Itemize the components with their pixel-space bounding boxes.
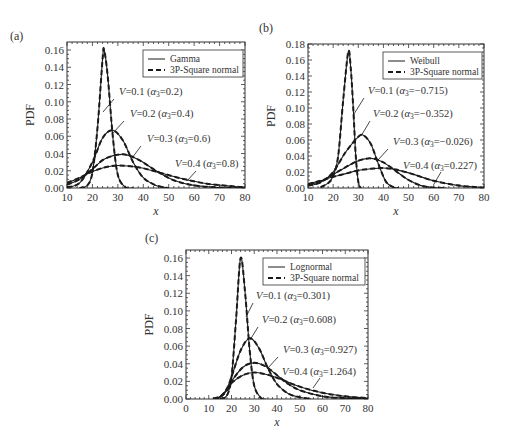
y-tick-label: 0.06 (286, 134, 306, 146)
panel-b: (b)10203040506070800.000.020.040.060.080… (259, 21, 490, 218)
y-tick-label: 0.14 (164, 270, 184, 282)
y-axis-title: PDF (23, 104, 37, 126)
x-tick-label: 40 (138, 191, 150, 203)
y-tick-label: 0.12 (286, 86, 305, 98)
legend: Lognormal3P-Square normal (263, 258, 365, 285)
curve-3p-square-normal-dashed (321, 51, 361, 188)
x-tick-label: 40 (378, 191, 390, 203)
y-axis-title: PDF (142, 313, 156, 335)
y-tick-label: 0.12 (164, 287, 183, 299)
y-tick-label: 0.08 (286, 118, 306, 130)
x-tick-label: 30 (249, 402, 261, 414)
legend-label-solid: Gamma (170, 54, 201, 64)
legend-label-dashed: 3P-Square normal (290, 273, 359, 283)
y-tick-label: 0.02 (45, 165, 64, 177)
y-tick-label: 0.08 (45, 113, 65, 125)
figure-canvas: (a)10203040506070800.000.020.040.060.080… (0, 0, 513, 438)
y-tick-label: 0.04 (286, 150, 306, 162)
x-axis-title: x (392, 204, 399, 218)
x-tick-label: 20 (226, 402, 238, 414)
legend-label-dashed: 3P-Square normal (410, 67, 479, 77)
curve-annotation: V=0.3 (α3=0.927) (283, 344, 357, 357)
curve-annotation: V=0.3 (α3=−0.026) (393, 136, 473, 149)
x-tick-label: 30 (353, 191, 365, 203)
x-tick-label: 70 (340, 402, 352, 414)
panel-label: (c) (145, 231, 158, 245)
annotation-leader-line (313, 378, 320, 388)
y-tick-label: 0.14 (286, 70, 306, 82)
curve-annotation: V=0.2 (α3=0.4) (130, 108, 194, 121)
curve-annotation: V=0.4 (α3=1.264) (282, 366, 356, 379)
x-tick-label: 50 (163, 191, 175, 203)
y-tick-label: 0.02 (164, 375, 183, 387)
y-tick-label: 0.06 (45, 130, 65, 142)
annotation-leader-line (267, 357, 278, 369)
y-tick-label: 0.10 (164, 305, 184, 317)
annotation-leader-line (361, 121, 370, 136)
legend-label-solid: Lognormal (290, 262, 333, 272)
y-axis-title: PDF (264, 105, 278, 127)
y-tick-label: 0.00 (286, 182, 306, 194)
annotation-leader-line (103, 99, 114, 112)
curve-annotation: V=0.1 (α3=0.301) (256, 290, 330, 303)
x-tick-label: 70 (453, 191, 465, 203)
annotation-leader-line (113, 121, 124, 133)
panel-c: (c)010203040506070800.000.020.040.060.08… (142, 231, 374, 429)
y-tick-label: 0.10 (45, 96, 65, 108)
x-tick-label: 60 (428, 191, 440, 203)
y-tick-label: 0.16 (164, 252, 184, 264)
x-tick-label: 60 (317, 402, 329, 414)
curve-annotation: V=0.2 (α3=−0.352) (373, 108, 453, 121)
y-tick-label: 0.00 (45, 182, 65, 194)
x-axis-title: x (273, 415, 280, 429)
x-tick-label: 30 (112, 191, 124, 203)
x-tick-label: 70 (214, 191, 226, 203)
x-tick-label: 0 (183, 402, 189, 414)
x-tick-label: 40 (272, 402, 284, 414)
curve-annotation: V=0.4 (α3=0.227) (403, 160, 477, 173)
y-tick-label: 0.18 (286, 38, 306, 50)
legend-label-dashed: 3P-Square normal (170, 65, 239, 75)
curve-annotation: V=0.2 (α3=0.608) (262, 314, 336, 327)
x-tick-label: 80 (240, 191, 252, 203)
legend: Gamma3P-Square normal (143, 50, 243, 77)
x-tick-label: 60 (189, 191, 201, 203)
y-tick-label: 0.10 (286, 102, 306, 114)
y-tick-label: 0.04 (164, 358, 184, 370)
y-tick-label: 0.14 (45, 61, 65, 73)
x-tick-label: 80 (363, 402, 375, 414)
curve-annotation: V=0.3 (α3=0.6) (147, 133, 211, 146)
x-tick-label: 20 (87, 191, 99, 203)
x-tick-label: 50 (294, 402, 306, 414)
x-tick-label: 80 (479, 191, 491, 203)
annotation-leader-line (132, 146, 141, 158)
curve-annotation: V=0.1 (α3=0.2) (119, 86, 183, 99)
annotation-leader-line (250, 327, 258, 340)
y-tick-label: 0.16 (286, 54, 306, 66)
legend-label-solid: Weibull (410, 56, 440, 66)
annotation-leader-line (378, 149, 388, 160)
curve-3p-square-normal-dashed (220, 257, 266, 399)
panel-a: (a)10203040506070800.000.020.040.060.080… (10, 29, 251, 218)
curve-annotation: V=0.4 (α3=0.8) (175, 158, 239, 171)
y-tick-label: 0.02 (286, 166, 305, 178)
annotation-leader-line (187, 171, 196, 181)
panel-label: (a) (10, 29, 23, 43)
curve-annotation: V=0.1 (α3=−0.715) (368, 85, 448, 98)
x-tick-label: 50 (403, 191, 415, 203)
annotation-leader-line (354, 98, 364, 114)
y-tick-label: 0.12 (45, 79, 64, 91)
y-tick-label: 0.04 (45, 148, 65, 160)
x-tick-label: 10 (203, 402, 215, 414)
legend: Weibull3P-Square normal (383, 52, 482, 79)
panel-label: (b) (259, 21, 273, 35)
x-axis-title: x (152, 204, 159, 218)
y-tick-label: 0.00 (164, 393, 184, 405)
x-tick-label: 20 (328, 191, 340, 203)
y-tick-label: 0.16 (45, 44, 65, 56)
y-tick-label: 0.08 (164, 323, 184, 335)
y-tick-label: 0.06 (164, 340, 184, 352)
